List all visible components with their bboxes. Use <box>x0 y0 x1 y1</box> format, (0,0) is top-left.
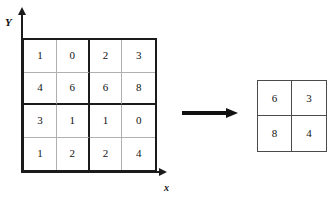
input-cell-value: 4 <box>136 148 142 159</box>
input-cell-r4c4: 4 <box>122 138 155 171</box>
input-cell-r3c3: 1 <box>90 105 123 138</box>
output-grid: 6 3 8 4 <box>257 80 327 152</box>
input-cell-value: 3 <box>37 115 43 126</box>
input-cell-r2c2: 6 <box>57 73 90 106</box>
input-cell-r4c2: 2 <box>57 138 90 171</box>
input-cell-r3c2: 1 <box>57 105 90 138</box>
pooling-diagram: Y x 1 0 2 3 4 6 6 8 3 1 1 0 1 2 2 4 6 3 … <box>0 0 334 204</box>
input-cell-value: 6 <box>103 82 109 93</box>
input-cell-value: 1 <box>37 148 43 159</box>
output-cell-r2c1: 8 <box>258 116 292 151</box>
output-cell-value: 3 <box>306 93 312 104</box>
input-cell-value: 8 <box>136 82 142 93</box>
arrow-head <box>226 108 238 118</box>
input-cell-value: 0 <box>136 115 142 126</box>
input-cell-value: 2 <box>69 148 75 159</box>
input-cell-value: 0 <box>69 50 75 61</box>
input-cell-r1c3: 2 <box>90 40 123 73</box>
input-cell-value: 2 <box>103 50 109 61</box>
output-cell-r2c2: 4 <box>292 116 326 151</box>
input-cell-r4c1: 1 <box>24 138 57 171</box>
input-cell-r2c3: 6 <box>90 73 123 106</box>
input-cell-value: 1 <box>103 115 109 126</box>
input-cell-value: 2 <box>103 148 109 159</box>
y-axis-arrowhead-icon <box>18 7 26 15</box>
output-cell-value: 6 <box>272 93 278 104</box>
input-cell-value: 6 <box>69 82 75 93</box>
input-cell-r1c1: 1 <box>24 40 57 73</box>
input-cell-r1c2: 0 <box>57 40 90 73</box>
input-cell-value: 1 <box>69 115 75 126</box>
x-axis-label: x <box>164 182 169 193</box>
x-axis-arrowhead-icon <box>159 168 167 176</box>
input-grid: 1 0 2 3 4 6 6 8 3 1 1 0 1 2 2 4 <box>22 38 157 172</box>
output-cell-r1c2: 3 <box>292 81 326 116</box>
arrow-shaft <box>182 111 228 115</box>
transform-arrow-icon <box>182 108 238 118</box>
input-cell-r2c1: 4 <box>24 73 57 106</box>
output-cell-value: 8 <box>272 128 278 139</box>
input-cell-r2c4: 8 <box>122 73 155 106</box>
y-axis-label: Y <box>5 17 12 28</box>
input-cell-r3c4: 0 <box>122 105 155 138</box>
input-cell-r1c4: 3 <box>122 40 155 73</box>
input-cell-r3c1: 3 <box>24 105 57 138</box>
output-cell-value: 4 <box>306 128 312 139</box>
input-cell-value: 4 <box>37 82 43 93</box>
output-cell-r1c1: 6 <box>258 81 292 116</box>
input-cell-value: 3 <box>136 50 142 61</box>
input-cell-r4c3: 2 <box>90 138 123 171</box>
input-cell-value: 1 <box>37 50 43 61</box>
